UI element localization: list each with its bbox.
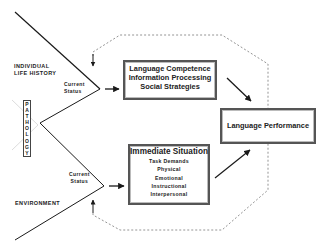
competence-line: Information Processing: [125, 73, 215, 82]
situation-item: Instructional: [130, 182, 208, 190]
pathology-label: P A T H O L O G Y: [23, 100, 31, 157]
situation-item: Physical: [130, 165, 208, 173]
status-lower-line1: Current: [69, 171, 90, 178]
situation-item: Interpersonal: [130, 190, 208, 198]
arrow-situation-to-performance: [215, 150, 250, 178]
life-history-line: [15, 12, 100, 89]
current-status-upper: Current Status: [64, 81, 85, 95]
current-status-lower: Current Status: [69, 171, 90, 185]
language-performance-box: Language Performance: [220, 108, 316, 144]
pathology-letter: Y: [24, 150, 30, 156]
immediate-situation-box: Immediate Situation Task Demands Physica…: [128, 144, 210, 205]
status-upper-line2: Status: [64, 88, 85, 95]
language-competence-box: Language Competence Information Processi…: [123, 60, 217, 100]
situation-title: Immediate Situation: [130, 147, 208, 157]
arrow-competence-to-performance: [227, 78, 251, 101]
competence-line: Language Competence: [125, 64, 215, 73]
competence-line: Social Strategies: [125, 82, 215, 91]
environment-line: [15, 186, 104, 240]
situation-item: Emotional: [130, 174, 208, 182]
situation-item: Task Demands: [130, 157, 208, 165]
status-lower-line2: Status: [69, 178, 90, 185]
status-upper-line1: Current: [64, 81, 85, 88]
individual-life-history-label: INDIVIDUAL LIFE HISTORY: [14, 63, 56, 77]
individual-label-line1: INDIVIDUAL: [14, 63, 56, 70]
environment-label: ENVIRONMENT: [15, 200, 60, 207]
individual-label-line2: LIFE HISTORY: [14, 70, 56, 77]
